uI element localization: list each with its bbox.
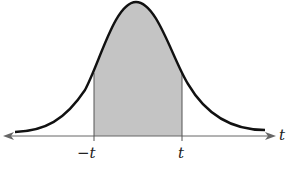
t-distribution-diagram: −t t t (0, 0, 288, 170)
label-positive-t: t (178, 144, 185, 162)
axis-label-t: t (279, 126, 286, 144)
label-negative-t: −t (77, 144, 97, 162)
shaded-region (15, 2, 265, 136)
